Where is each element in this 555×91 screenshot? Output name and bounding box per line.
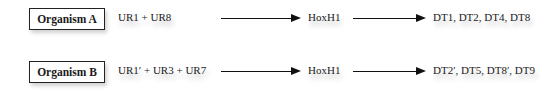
right-arrow-icon <box>353 18 426 20</box>
right-arrow-icon <box>221 71 301 73</box>
right-arrow-icon <box>353 71 426 73</box>
organism-a-targets: DT1, DT2, DT4, DT8 <box>433 11 530 23</box>
organism-a-label-box: Organism A <box>29 8 105 30</box>
organism-b-label-box: Organism B <box>29 61 105 83</box>
organism-b-row: Organism B UR1′ + UR3 + UR7 HoxH1 DT2′, … <box>0 61 555 87</box>
organism-a-regulators: UR1 + UR8 <box>118 11 171 23</box>
organism-b-regulators: UR1′ + UR3 + UR7 <box>118 64 206 76</box>
organism-b-gene: HoxH1 <box>308 64 340 76</box>
organism-b-targets: DT2′, DT5, DT8′, DT9 <box>433 64 535 76</box>
organism-a-row: Organism A UR1 + UR8 HoxH1 DT1, DT2, DT4… <box>0 8 555 34</box>
organism-a-gene: HoxH1 <box>308 11 340 23</box>
right-arrow-icon <box>221 18 301 20</box>
